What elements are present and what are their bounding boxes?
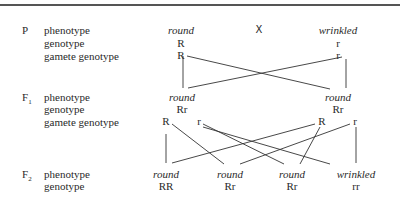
- p-phenotype-label: phenotype: [44, 24, 90, 36]
- f2-offspring4-genotype: rr: [352, 180, 359, 192]
- f2-offspring3-phenotype: round: [279, 168, 305, 180]
- f1-ind1-phenotype: round: [169, 91, 195, 103]
- p-parent1-genotype: R: [177, 37, 184, 49]
- f1-ind2-genotype: Rr: [333, 103, 344, 115]
- p-genotype-label: genotype: [44, 37, 84, 49]
- f1-ind2-phenotype: round: [325, 91, 351, 103]
- f2-offspring1-genotype: RR: [159, 180, 174, 192]
- p-parent2-phenotype: wrinkled: [319, 24, 358, 36]
- f2-phenotype-label: phenotype: [44, 168, 90, 180]
- f2-offspring3-genotype: Rr: [287, 180, 298, 192]
- f2-offspring2-phenotype: round: [217, 168, 243, 180]
- f2-genotype-label: genotype: [44, 180, 84, 192]
- p-gamete-genotype-label: gamete genotype: [44, 50, 119, 62]
- f1-ind1-gamete-R: R: [162, 115, 169, 127]
- f1-ind2-gamete-r: r: [353, 115, 357, 127]
- p-parent2-gamete: r: [336, 49, 340, 61]
- f1-ind1-genotype: Rr: [177, 103, 188, 115]
- f1-generation-label: F1: [22, 91, 32, 108]
- p-generation-label: P: [22, 24, 28, 36]
- f2-offspring2-genotype: Rr: [225, 180, 236, 192]
- p-parent1-phenotype: round: [168, 24, 194, 36]
- f1-genotype-label: genotype: [44, 103, 84, 115]
- p-parent1-gamete: R: [177, 49, 184, 61]
- f2-offspring1-phenotype: round: [153, 168, 179, 180]
- f2-offspring4-phenotype: wrinkled: [337, 168, 376, 180]
- cross-symbol: X: [256, 24, 263, 36]
- f1-gamete-genotype-label: gamete genotype: [44, 116, 119, 128]
- p-parent2-genotype: r: [336, 37, 340, 49]
- f2-generation-label: F2: [22, 168, 32, 185]
- f1-phenotype-label: phenotype: [44, 91, 90, 103]
- f1-ind1-gamete-r: r: [197, 115, 201, 127]
- f1-ind2-gamete-R: R: [318, 115, 325, 127]
